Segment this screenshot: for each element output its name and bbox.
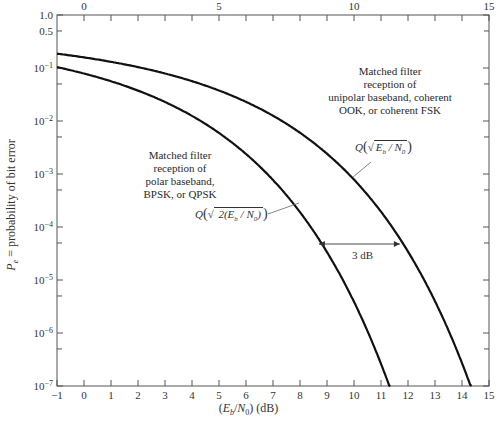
- y-tick-label: 10−7: [33, 379, 53, 392]
- x-tick-label: 8: [297, 389, 303, 401]
- q-function-polar-label: Q(√ 2(Eb / N0)): [195, 206, 268, 223]
- annotation-line: unipolar baseband, coherent: [300, 91, 480, 104]
- annotation-line: polar baseband,: [125, 175, 235, 188]
- x-tick-label: 3: [162, 389, 168, 401]
- x-tick-label: 14: [457, 389, 469, 401]
- x-tick-label: 1: [108, 389, 114, 401]
- x-tick-label: 4: [189, 389, 195, 401]
- y-tick-label: 10−6: [33, 326, 53, 339]
- annotation-unipolar: Matched filter reception of unipolar bas…: [300, 65, 480, 117]
- x-tick-label: 13: [430, 389, 442, 401]
- annotation-line: reception of: [125, 162, 235, 175]
- arrowhead-right: [394, 241, 400, 247]
- annotation-line: Matched filter: [125, 149, 235, 162]
- y-tick-label: 0.5: [39, 25, 53, 37]
- x-axis-label: (Eb/N0) (dB): [0, 401, 497, 417]
- annotation-line: BPSK, or QPSK: [125, 188, 235, 201]
- x-tick-label: 11: [376, 389, 387, 401]
- top-tick-label: 0: [81, 0, 87, 12]
- x-tick-label: 5: [216, 389, 222, 401]
- q-function-unipolar-label: Q(√Eb / N0): [355, 139, 412, 156]
- three-db-label: 3 dB: [352, 249, 373, 261]
- x-tick-label: 15: [484, 389, 496, 401]
- annotation-line: OOK, or coherent FSK: [300, 104, 480, 117]
- x-tick-label: 7: [270, 389, 276, 401]
- top-tick-label: 5: [216, 0, 222, 12]
- y-tick-label: 10−3: [33, 167, 53, 180]
- x-tick-label: 6: [243, 389, 249, 401]
- x-tick-label: 12: [403, 389, 414, 401]
- x-tick-label: 10: [349, 389, 361, 401]
- top-tick-label: 15: [484, 0, 496, 12]
- annotation-polar: Matched filter reception of polar baseba…: [125, 149, 235, 201]
- x-tick-label: 2: [135, 389, 141, 401]
- top-tick-label: 10: [349, 0, 361, 12]
- x-tick-label: 9: [324, 389, 330, 401]
- y-tick-label: 10−1: [33, 61, 53, 74]
- leader-line-unipolar: [353, 162, 371, 177]
- leader-line-polar: [268, 203, 299, 214]
- annotation-line: reception of: [300, 78, 480, 91]
- y-axis-label: Pe = probability of bit error: [4, 139, 20, 270]
- y-tick-label: 10−4: [33, 220, 53, 233]
- x-tick-label: −1: [51, 389, 63, 401]
- x-tick-label: 0: [81, 389, 87, 401]
- annotation-line: Matched filter: [300, 65, 480, 78]
- y-tick-label: 10−5: [33, 273, 53, 286]
- y-tick-label: 10−2: [33, 114, 53, 127]
- y-tick-label: 1.0: [39, 9, 53, 21]
